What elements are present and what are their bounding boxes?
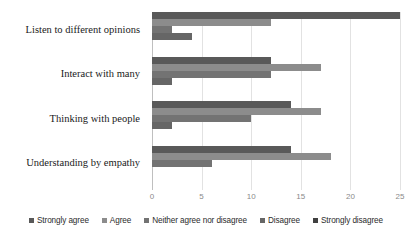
bar (152, 71, 271, 78)
bar (152, 78, 172, 85)
category-label: Understanding by empathy (26, 157, 140, 168)
category-label: Listen to different opinions (26, 24, 140, 35)
bar (152, 160, 212, 167)
legend-label: Neither agree nor disagree (152, 216, 247, 225)
bar (152, 146, 291, 153)
legend-swatch-icon (313, 218, 318, 223)
legend-swatch-icon (260, 218, 265, 223)
category-label: Thinking with people (50, 113, 140, 124)
bar-group (152, 12, 400, 57)
value-axis-tick-labels: 0510152025 (152, 192, 400, 206)
category-axis-labels: Listen to different opinionsInteract wit… (0, 12, 146, 190)
bar-group (152, 146, 400, 191)
legend-item[interactable]: Strongly agree (29, 216, 89, 225)
tick-label: 15 (296, 192, 305, 201)
tick-label: 5 (199, 192, 203, 201)
legend-item[interactable]: Strongly disagree (313, 216, 383, 225)
legend-item[interactable]: Neither agree nor disagree (144, 216, 247, 225)
bar (152, 57, 271, 64)
bar-group (152, 57, 400, 102)
bar-group (152, 101, 400, 146)
tick-label: 0 (150, 192, 154, 201)
bar (152, 153, 331, 160)
legend-item[interactable]: Agree (102, 216, 131, 225)
bar (152, 122, 172, 129)
legend-label: Disagree (268, 216, 300, 225)
bar (152, 33, 192, 40)
bar-chart: Listen to different opinionsInteract wit… (0, 0, 412, 235)
tick-label: 10 (247, 192, 256, 201)
bar (152, 64, 321, 71)
chart-legend: Strongly agreeAgreeNeither agree nor dis… (0, 212, 412, 228)
legend-swatch-icon (29, 218, 34, 223)
gridline (400, 12, 401, 190)
category-label: Interact with many (61, 68, 140, 79)
legend-label: Strongly agree (37, 216, 89, 225)
bar (152, 101, 291, 108)
bar-groups (152, 12, 400, 190)
bar (152, 12, 400, 19)
legend-label: Agree (110, 216, 131, 225)
legend-swatch-icon (102, 218, 107, 223)
bar (152, 19, 271, 26)
bar (152, 115, 251, 122)
legend-label: Strongly disagree (321, 216, 383, 225)
tick-label: 20 (346, 192, 355, 201)
bar (152, 26, 172, 33)
tick-label: 25 (396, 192, 405, 201)
legend-swatch-icon (144, 218, 149, 223)
legend-item[interactable]: Disagree (260, 216, 300, 225)
bar (152, 108, 321, 115)
plot-area (152, 12, 400, 190)
